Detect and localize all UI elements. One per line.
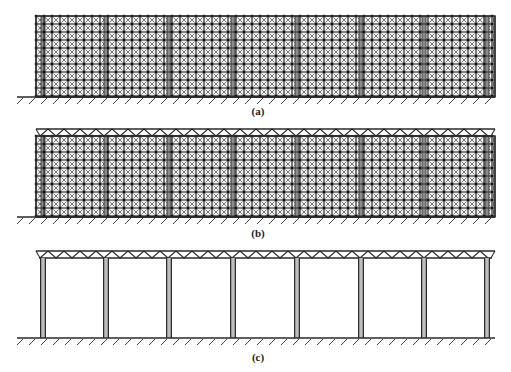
panel-c (17, 251, 495, 345)
column (167, 258, 172, 338)
column (422, 258, 427, 338)
column (295, 258, 300, 338)
column (104, 258, 109, 338)
column (485, 258, 490, 338)
caption-b: (b) (251, 227, 264, 239)
panel-b (17, 129, 495, 224)
caption-c: (c) (252, 351, 264, 363)
structural-diagram (0, 0, 511, 372)
caption-a: (a) (252, 105, 265, 117)
column (359, 258, 364, 338)
column (231, 258, 236, 338)
column (41, 258, 46, 338)
panel-a (17, 15, 495, 104)
